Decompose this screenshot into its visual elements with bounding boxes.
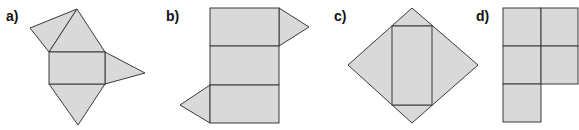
figure-a [30, 9, 145, 125]
figure-d-square-2 [541, 8, 578, 46]
figure-a-right-triangle [105, 52, 145, 84]
figure-d-square-1 [503, 8, 541, 46]
figure-c-rectangle [392, 26, 432, 105]
nets-diagram [0, 0, 579, 130]
figure-d-square-4 [541, 46, 578, 84]
figure-b-right-triangle [279, 8, 309, 46]
figure-b-rectangle-top [210, 8, 279, 46]
figure-b-rectangle-middle [210, 46, 279, 85]
figure-a-bottom-triangle [49, 84, 105, 125]
figure-d-square-3 [503, 46, 541, 84]
figure-a-rectangle [49, 52, 105, 84]
figure-b-left-triangle [180, 85, 210, 123]
figure-b [180, 8, 309, 123]
figure-b-rectangle-bottom [210, 85, 279, 123]
figure-d-square-5 [503, 84, 541, 122]
figure-d [503, 8, 578, 122]
figure-c [348, 8, 478, 123]
